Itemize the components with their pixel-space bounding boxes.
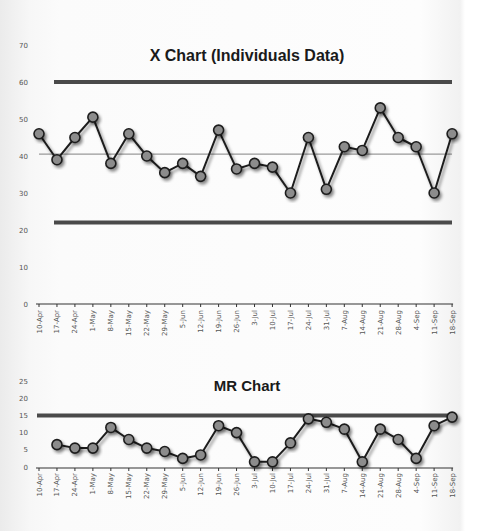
x-tick-label: 21-Aug [377,473,385,498]
y-tick-label: 25 [19,378,28,386]
x-tick-label: 10-Jul [269,473,277,493]
data-point [214,421,224,431]
x-tick-label: 10-Apr [36,473,44,497]
x-tick-label: 17-Jul [287,473,295,493]
data-point [70,443,80,453]
x-tick-label: 5-Jun [179,473,187,491]
data-point [106,422,116,432]
data-point [339,424,349,434]
x-tick-label: 19-Jun [215,473,223,496]
x-tick-label: 12-Jun [197,473,205,496]
y-tick-label: 5 [24,446,28,454]
x-tick-label: 28-Aug [395,473,403,498]
data-point [375,424,385,434]
mr-chart: MR Chart051015202510-Apr17-Apr24-Apr1-Ma… [0,0,494,531]
data-point [303,414,313,424]
x-tick-label: 14-Aug [359,473,367,498]
data-point [142,443,152,453]
control-charts-page: X Chart (Individuals Data)01020304050607… [0,0,494,531]
data-point [88,443,98,453]
data-point [357,457,367,467]
data-point [321,417,331,427]
y-tick-label: 15 [19,412,28,420]
x-tick-label: 24-Jul [305,473,313,493]
x-tick-label: 24-Apr [71,473,79,497]
y-tick-label: 20 [19,395,28,403]
data-point [232,428,242,438]
data-point [52,440,62,450]
x-tick-label: 11-Sep [431,472,439,497]
x-tick-label: 26-Jun [233,473,241,496]
x-tick-label: 4-Sep [413,472,421,493]
data-point [124,434,134,444]
data-point [160,447,170,457]
x-tick-label: 7-Aug [341,473,349,494]
data-point [411,453,421,463]
data-point [250,457,260,467]
data-point [429,421,439,431]
x-tick-label: 29-May [161,473,169,499]
data-point [393,434,403,444]
data-point [178,453,188,463]
x-tick-label: 1-May [89,473,97,494]
y-tick-label: 0 [24,464,28,472]
x-tick-label: 31-Jul [323,473,331,493]
data-point [267,457,277,467]
x-tick-label: 17-Apr [53,473,61,497]
y-tick-label: 10 [19,429,28,437]
x-tick-label: 15-May [125,473,133,499]
data-point [285,438,295,448]
x-tick-label: 18-Sep [449,472,457,497]
x-tick-label: 22-May [143,473,151,499]
data-point [447,412,457,422]
data-point [196,450,206,460]
x-tick-label: 8-May [107,473,115,494]
chart-title: MR Chart [214,377,281,394]
x-tick-label: 3-Jul [251,473,259,489]
